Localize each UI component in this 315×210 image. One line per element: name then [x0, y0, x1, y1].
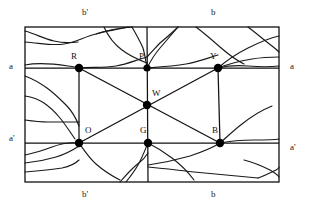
crack-trace	[147, 27, 178, 57]
outer-rectangle-group	[25, 27, 279, 182]
edge-label-bottom-right: b	[211, 190, 216, 199]
crack-traces-group	[25, 27, 279, 182]
vertex-node-w	[143, 101, 151, 109]
crack-trace	[25, 31, 78, 43]
edge-label-right-upper: a	[290, 62, 294, 71]
vertex-node-r	[75, 64, 83, 72]
crack-trace	[25, 96, 75, 139]
vertex-node-o	[75, 139, 83, 147]
node-label-o: O	[85, 126, 92, 135]
crack-trace	[148, 167, 258, 178]
crack-trace	[244, 160, 279, 177]
crack-trace	[25, 143, 79, 155]
edge-label-top-left: b'	[82, 8, 88, 17]
edge-label-bottom-left: b'	[82, 190, 88, 199]
vertex-node-b	[216, 139, 224, 147]
node-label-r: R	[71, 52, 77, 61]
crack-trace	[218, 36, 279, 68]
edge-label-left-upper: a	[9, 62, 13, 71]
outer-rectangle	[25, 27, 279, 182]
node-label-y: Y	[210, 52, 217, 61]
edge-label-right-lower: a'	[290, 143, 296, 152]
crack-trace	[79, 143, 120, 180]
crack-trace	[25, 120, 79, 122]
crack-trace	[126, 143, 148, 182]
node-label-b: B	[212, 126, 218, 135]
crack-trace	[220, 106, 272, 143]
crack-trace	[248, 27, 279, 52]
crack-trace	[148, 143, 220, 165]
diagram-svg	[0, 0, 315, 210]
crack-trace	[25, 146, 79, 163]
crack-trace	[196, 27, 244, 64]
vertex-node-y	[214, 64, 222, 72]
crack-trace	[25, 76, 79, 126]
line-vertical-right	[218, 68, 220, 143]
crack-trace	[25, 63, 79, 68]
crack-trace	[147, 55, 218, 68]
edge-label-top-right: b	[211, 8, 216, 17]
node-label-g: G	[140, 126, 147, 135]
vertex-node-g	[144, 139, 152, 147]
edge-label-left-lower: a'	[9, 134, 15, 143]
figure-canvas: b'baa'aa'b'b RPYWOGB	[0, 0, 315, 210]
node-label-p: P	[139, 52, 144, 61]
straight-lines-group	[25, 27, 279, 182]
crack-trace	[148, 143, 194, 180]
vertex-node-p	[143, 64, 150, 71]
node-label-w: W	[152, 89, 161, 98]
crack-trace	[147, 27, 178, 68]
crack-trace	[120, 153, 148, 182]
